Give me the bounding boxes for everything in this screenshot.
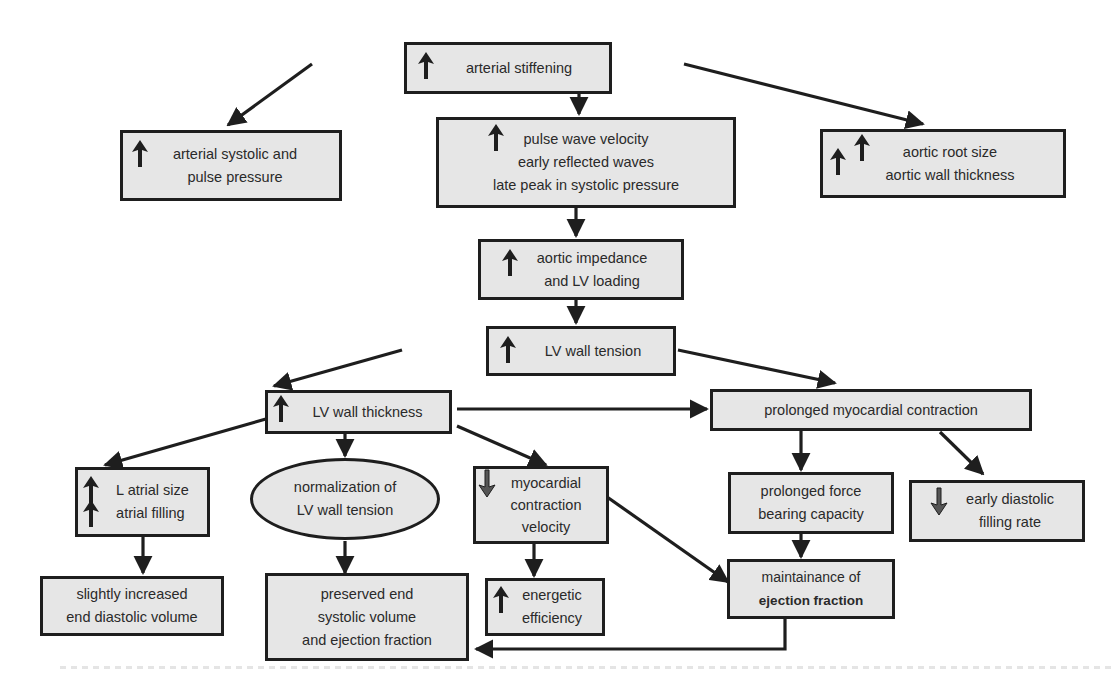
- node-text: myocardial: [511, 472, 582, 494]
- increase-arrow-icon: [131, 138, 149, 168]
- node-end-diastolic: slightly increased end diastolic volume: [40, 576, 224, 636]
- node-lv-wall-tension: LV wall tension: [486, 326, 676, 376]
- node-text: aortic wall thickness: [886, 164, 1015, 187]
- node-arterial-pressure: arterial systolic and pulse pressure: [120, 130, 342, 201]
- node-text: LV wall thickness: [312, 401, 422, 424]
- increase-arrow-icon: [82, 498, 100, 528]
- edge-stiffening-to-pressure: [228, 64, 312, 125]
- node-early-diastolic: early diastolic filling rate: [909, 480, 1085, 542]
- node-text: bearing capacity: [758, 503, 864, 526]
- node-aortic-root: aortic root size aortic wall thickness: [820, 129, 1066, 198]
- edge-tension-to-prolonged: [678, 350, 835, 383]
- node-text: L atrial size: [116, 479, 189, 502]
- node-energetic: energetic efficiency: [485, 578, 605, 636]
- node-text: pulse wave velocity: [493, 128, 679, 151]
- node-text: pulse pressure: [173, 166, 297, 189]
- node-text: normalization of: [294, 476, 396, 499]
- node-text: aortic root size: [886, 141, 1015, 164]
- edge-prolonged-to-diastolic: [940, 432, 983, 474]
- increase-arrow-icon: [829, 146, 847, 176]
- decrease-arrow-icon: [930, 487, 948, 517]
- node-text: energetic: [522, 584, 582, 607]
- node-text: LV wall tension: [545, 340, 641, 363]
- node-text: velocity: [511, 516, 582, 538]
- caption-strip: [60, 666, 1114, 669]
- node-text: aortic impedance: [537, 247, 647, 270]
- node-text: efficiency: [522, 607, 582, 630]
- node-lv-wall-thickness: LV wall thickness: [265, 390, 452, 434]
- increase-arrow-icon: [272, 393, 290, 423]
- increase-arrow-icon: [492, 584, 510, 614]
- node-text: LV wall tension: [294, 499, 396, 522]
- node-text: late peak in systolic pressure: [493, 174, 679, 197]
- increase-arrow-icon: [417, 50, 435, 80]
- node-prolonged-contraction: prolonged myocardial contraction: [710, 389, 1032, 431]
- node-text: contraction: [511, 494, 582, 516]
- node-text: ejection fraction: [759, 589, 863, 612]
- node-text: preserved end: [302, 583, 432, 606]
- increase-arrow-icon: [499, 334, 517, 364]
- increase-arrow-icon: [853, 132, 871, 162]
- node-text: slightly increased: [66, 583, 197, 606]
- node-text: arterial systolic and: [173, 143, 297, 166]
- node-text: and LV loading: [537, 270, 647, 293]
- node-text: maintainance of: [759, 566, 863, 589]
- node-text: prolonged force: [758, 480, 864, 503]
- edge-stiffening-to-aortic-root: [684, 64, 923, 124]
- node-text: early diastolic: [966, 488, 1054, 511]
- node-text: prolonged myocardial contraction: [764, 399, 978, 422]
- edge-tension-to-thickness: [274, 350, 402, 386]
- increase-arrow-icon: [487, 122, 505, 152]
- node-text: arterial stiffening: [466, 57, 572, 80]
- node-text: systolic volume: [302, 606, 432, 629]
- node-preserved-end: preserved end systolic volume and ejecti…: [265, 573, 469, 661]
- node-prolonged-force: prolonged force bearing capacity: [728, 472, 894, 534]
- node-maintainance: maintainance of ejection fraction: [727, 559, 895, 619]
- node-text: filling rate: [966, 511, 1054, 534]
- decrease-arrow-icon: [478, 469, 496, 499]
- node-normalization: normalization of LV wall tension: [250, 458, 440, 540]
- node-aortic-impedance: aortic impedance and LV loading: [478, 239, 684, 300]
- node-text: atrial filling: [116, 502, 189, 525]
- node-l-atrial: L atrial size atrial filling: [75, 467, 210, 537]
- node-myocardial-velocity: myocardial contraction velocity: [473, 466, 609, 544]
- node-pulse-wave: pulse wave velocity early reflected wave…: [436, 117, 736, 208]
- node-text: early reflected waves: [493, 151, 679, 174]
- increase-arrow-icon: [501, 247, 519, 277]
- edge-velocity-to-maintainance: [600, 492, 728, 582]
- node-text: end diastolic volume: [66, 606, 197, 629]
- node-text: and ejection fraction: [302, 629, 432, 652]
- edge-thickness-to-velocity: [457, 426, 546, 465]
- node-arterial-stiffening: arterial stiffening: [404, 42, 612, 94]
